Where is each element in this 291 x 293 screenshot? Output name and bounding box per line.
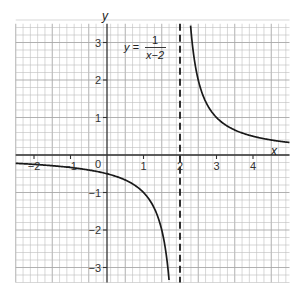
function-graph: −2−11234−3−2−1123 x y 0 y = 1 x−2 xyxy=(0,0,291,293)
x-tick-label: 4 xyxy=(250,160,256,172)
origin-label: 0 xyxy=(95,158,101,170)
y-tick-label: −2 xyxy=(88,224,101,236)
y-tick-label: 1 xyxy=(95,112,101,124)
x-axis-label: x xyxy=(270,144,278,158)
equation-label: y = 1 x−2 xyxy=(123,34,166,61)
axes xyxy=(16,24,290,283)
x-tick-label: 2 xyxy=(177,160,183,172)
y-tick-label: −3 xyxy=(88,262,101,274)
x-tick-label: −1 xyxy=(64,160,77,172)
equation-denominator: x−2 xyxy=(145,49,164,61)
y-tick-label: 2 xyxy=(95,74,101,86)
y-axis-label: y xyxy=(101,9,109,23)
y-tick-label: −1 xyxy=(88,187,101,199)
equation-numerator: 1 xyxy=(152,34,158,46)
x-tick-label: −2 xyxy=(28,160,41,172)
x-tick-label: 1 xyxy=(140,160,146,172)
function-curves xyxy=(16,26,290,280)
y-tick-label: 3 xyxy=(95,37,101,49)
equation-lhs: y = xyxy=(123,41,140,53)
x-tick-label: 3 xyxy=(213,160,219,172)
